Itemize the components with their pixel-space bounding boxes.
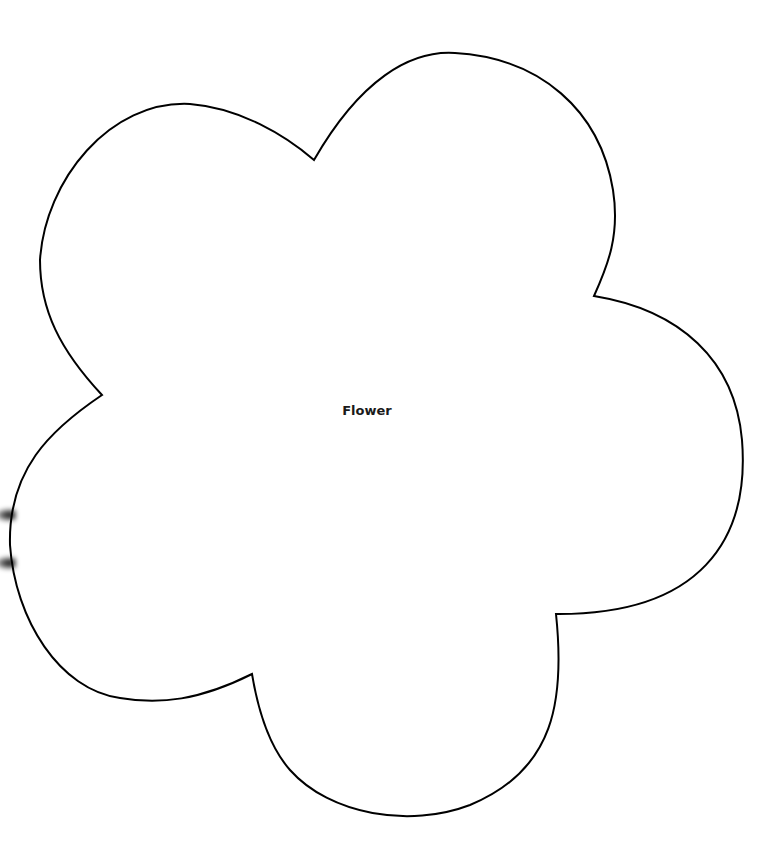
flower-shape[interactable] <box>0 0 763 863</box>
edge-connector-mark-upper <box>0 508 16 522</box>
flower-label: Flower <box>342 403 392 418</box>
edge-connector-mark-lower <box>0 556 16 570</box>
flower-outline[interactable] <box>10 53 743 816</box>
diagram-canvas: Flower <box>0 0 763 863</box>
